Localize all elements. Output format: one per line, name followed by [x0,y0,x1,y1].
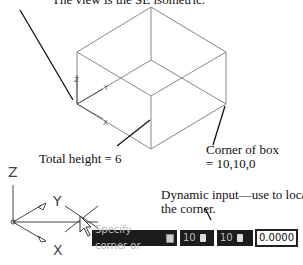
view-annotation: The view is the SE isometric. [52,0,205,7]
dynamic-annotation-line2: the corner. [161,202,216,216]
corner-annotation-line2: = 10,10,0 [206,157,256,171]
cursor-icon [80,216,91,236]
ucs-x-label: X [53,242,63,258]
corner-annotation-line1: Corner of box [206,143,279,157]
svg-text:X: X [103,119,108,127]
dynamic-annotation-line1: Dynamic input—use to locate [161,188,303,202]
svg-text:Y: Y [103,84,109,92]
svg-text:Z: Z [74,76,79,84]
lock-icon [237,234,243,242]
dynamic-input-field-1[interactable]: 10 [180,230,214,246]
dynamic-input-prompt: Specify corner or [92,230,177,246]
ucs-z-label: Z [8,164,18,180]
down-arrow-icon[interactable] [166,234,174,243]
lock-icon [200,234,206,242]
dynamic-input-field-3[interactable]: 0.0000 [256,230,297,246]
dynamic-input-field-2[interactable]: 10 [217,230,253,246]
height-annotation: Total height = 6 [39,152,122,166]
ucs-y-label: Y [53,193,62,209]
dynamic-input-bar: Specify corner or 10 10 0.0000 [92,230,297,246]
